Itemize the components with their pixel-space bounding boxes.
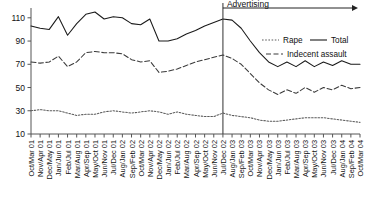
x-tick-label: Dec/May 01 — [45, 140, 54, 179]
x-tick-label: Aug/Jan 03 — [228, 140, 237, 177]
x-tick-label: Mar/Aug 01 — [73, 140, 82, 178]
x-tick-label: Apr/Sep 01 — [82, 140, 91, 177]
x-tick-label: Feb/Jul 03 — [283, 140, 292, 175]
chart-legend: RapeTotalIndecent assault — [262, 36, 348, 59]
x-tick-label: Jan/Jun 03 — [274, 140, 283, 176]
line-chart: 1030507090110 Oct/Mar 01Nov/Apr 01Dec/Ma… — [0, 0, 365, 217]
x-tick-label: Jun/Nov 03 — [319, 140, 328, 177]
series-line-rape — [31, 110, 360, 123]
x-tick-label: Oct/Mar 02 — [137, 140, 146, 177]
x-tick-label: Nov/Apr 01 — [36, 140, 45, 177]
x-tick-label: Oct/Mar 01 — [27, 140, 36, 177]
x-tick-label: Oct/Mar 04 — [356, 140, 365, 177]
chart-container: 1030507090110 Oct/Mar 01Nov/Apr 01Dec/Ma… — [0, 0, 365, 217]
y-tick-label: 10 — [16, 129, 26, 139]
x-tick-label: Mar/Aug 03 — [292, 140, 301, 178]
y-tick-label: 50 — [16, 83, 26, 93]
annotation-group: Advertising — [223, 0, 358, 134]
x-tick-label: Jun/Nov 02 — [210, 140, 219, 177]
x-tick-label: Mar/Aug 02 — [182, 140, 191, 178]
data-series-group — [31, 12, 360, 122]
x-tick-label: Dec/May 03 — [265, 140, 274, 179]
y-tick-label: 90 — [16, 36, 26, 46]
legend-label: Indecent assault — [287, 50, 347, 59]
x-tick-label: Apr/Sep 02 — [192, 140, 201, 177]
x-tick-label: Feb/Jul 02 — [173, 140, 182, 175]
x-tick-label: Jul/Dec 02 — [219, 140, 228, 175]
x-tick-label: Jun/Nov 01 — [100, 140, 109, 177]
x-tick-label: Jan/Jun 01 — [54, 140, 63, 176]
x-tick-label: Feb/Jul 01 — [64, 140, 73, 175]
x-tick-label: Jul/Dec 03 — [329, 140, 338, 175]
x-tick-label: Aug/Jan 04 — [338, 140, 347, 177]
x-tick-label: Sep/Feb 02 — [128, 140, 137, 178]
x-axis: Oct/Mar 01Nov/Apr 01Dec/May 01Jan/Jun 01… — [27, 134, 365, 179]
x-tick-label: Sep/Feb 04 — [347, 140, 356, 178]
y-tick-label: 30 — [16, 106, 26, 116]
y-tick-label: 70 — [16, 59, 26, 69]
x-tick-label: Dec/May 02 — [155, 140, 164, 179]
x-tick-label: May/Oct 01 — [91, 140, 100, 178]
x-tick-label: Nov/Apr 02 — [146, 140, 155, 177]
x-tick-label: Oct/Mar 03 — [246, 140, 255, 177]
x-tick-label: Nov/Apr 03 — [255, 140, 264, 177]
y-tick-label: 110 — [11, 13, 25, 23]
x-tick-label: Jul/Dec 01 — [109, 140, 118, 175]
legend-label: Total — [331, 36, 348, 45]
x-tick-label: Jan/Jun 02 — [164, 140, 173, 176]
x-tick-label: May/Oct 03 — [310, 140, 319, 178]
x-tick-label: Apr/Sep 03 — [301, 140, 310, 177]
advertising-arrow-head — [352, 5, 358, 11]
y-axis: 1030507090110 — [11, 8, 31, 139]
x-tick-label: May/Oct 02 — [201, 140, 210, 178]
advertising-label: Advertising — [227, 0, 269, 9]
x-tick-label: Sep/Feb 03 — [237, 140, 246, 178]
legend-label: Rape — [283, 36, 303, 45]
x-tick-label: Aug/Jan 02 — [118, 140, 127, 177]
